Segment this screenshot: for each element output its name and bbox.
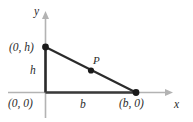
label-leg-horizontal: b bbox=[80, 99, 86, 111]
point-marker-p bbox=[88, 67, 94, 73]
label-vertex-top: (0, h) bbox=[9, 42, 34, 54]
label-point-p: P bbox=[93, 55, 100, 66]
point-marker-b-0 bbox=[133, 89, 140, 96]
x-axis-arrowhead bbox=[165, 89, 173, 96]
point-marker-0-h bbox=[42, 44, 49, 51]
label-vertex-origin: (0, 0) bbox=[8, 98, 33, 110]
label-vertex-right: (b, 0) bbox=[119, 98, 144, 110]
label-x-axis: x bbox=[174, 99, 179, 111]
label-y-axis: y bbox=[34, 6, 39, 18]
y-axis-arrowhead bbox=[42, 11, 49, 19]
geometry-figure: (0, h) h (0, 0) b (b, 0) P y x bbox=[0, 0, 193, 122]
label-leg-vertical: h bbox=[30, 65, 36, 77]
